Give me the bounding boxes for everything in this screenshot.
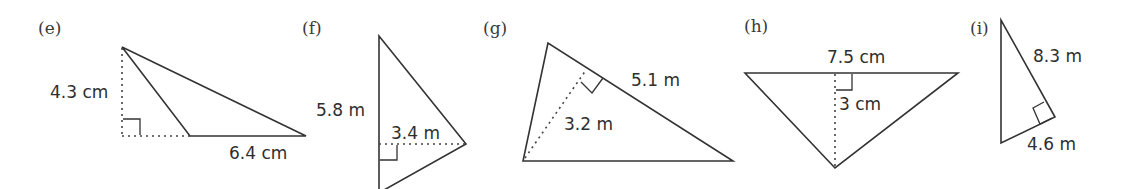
figure-label-e: (e): [38, 18, 61, 38]
height-label-i: 4.6 m: [1027, 134, 1076, 154]
figure-g: (g) 5.1 m 3.2 m: [483, 18, 733, 161]
figure-h: (h) 7.5 cm 3 cm: [744, 16, 958, 168]
height-label-f: 3.4 m: [391, 123, 440, 143]
figure-label-g: (g): [483, 18, 507, 38]
base-label-f: 5.8 m: [316, 100, 365, 120]
triangle-e: [122, 47, 306, 136]
figure-label-f: (f): [302, 18, 322, 38]
base-label-g: 5.1 m: [631, 70, 680, 90]
triangle-g: [523, 43, 733, 161]
figure-f: (f) 5.8 m 3.4 m: [302, 18, 466, 189]
figure-label-h: (h): [744, 16, 768, 36]
figure-e: (e) 4.3 cm 6.4 cm: [38, 18, 306, 163]
height-label-h: 3 cm: [839, 94, 881, 114]
right-angle-mark-g: [581, 78, 603, 93]
base-label-h: 7.5 cm: [827, 47, 885, 67]
base-label-e: 6.4 cm: [229, 143, 287, 163]
triangle-i: [1001, 20, 1055, 143]
triangle-area-diagrams: (e) 4.3 cm 6.4 cm (f) 5.8 m 3.4 m (g) 5.…: [0, 0, 1126, 189]
base-label-i: 8.3 m: [1033, 46, 1082, 66]
right-angle-mark-f: [380, 145, 397, 160]
triangle-f: [379, 36, 466, 189]
figure-i: (i) 8.3 m 4.6 m: [970, 18, 1082, 154]
right-angle-mark-e: [123, 119, 140, 135]
height-label-e: 4.3 cm: [50, 82, 108, 102]
right-angle-mark-h: [836, 74, 852, 90]
height-label-g: 3.2 m: [564, 114, 613, 134]
figure-label-i: (i): [970, 18, 989, 38]
